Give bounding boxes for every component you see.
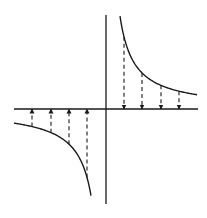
axes: [14, 15, 198, 204]
hyperbola-branch-lower-left: [14, 123, 91, 196]
hyperbola-diagram: [0, 0, 207, 218]
hyperbola-branch-upper-right: [120, 16, 197, 95]
